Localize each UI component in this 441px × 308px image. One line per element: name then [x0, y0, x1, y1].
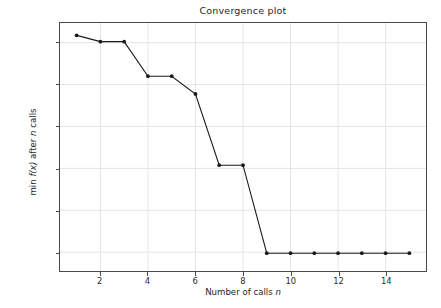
x-tick-mark: [147, 272, 148, 276]
y-tick-mark: [56, 253, 60, 254]
y-tick-mark: [56, 42, 60, 43]
x-tick-label: 2: [85, 276, 115, 286]
series-line: [77, 35, 410, 253]
data-point-marker: [407, 251, 411, 255]
x-tick-label: 14: [371, 276, 401, 286]
data-point-marker: [217, 163, 221, 167]
data-point-marker: [146, 74, 150, 78]
data-point-marker: [289, 251, 293, 255]
x-tick-mark: [291, 272, 292, 276]
plot-area: [59, 22, 427, 272]
convergence-chart-figure: Convergence plot 0.0−0.2−0.4−0.6−0.8−1.0…: [0, 0, 441, 308]
y-tick-mark: [56, 211, 60, 212]
data-point-marker: [265, 251, 269, 255]
x-tick-label: 4: [132, 276, 162, 286]
x-tick-label: 10: [276, 276, 306, 286]
data-point-marker: [312, 251, 316, 255]
y-axis-label-italic-n: n: [28, 130, 38, 135]
data-point-marker: [170, 74, 174, 78]
x-axis-label-italic: n: [275, 287, 280, 297]
x-tick-label: 12: [324, 276, 354, 286]
chart-title: Convergence plot: [59, 5, 427, 16]
y-tick-mark: [56, 126, 60, 127]
x-tick-mark: [386, 272, 387, 276]
y-tick-mark: [56, 169, 60, 170]
y-axis-label: min f(x) after n calls: [28, 72, 38, 232]
data-point-marker: [75, 33, 79, 37]
data-series-layer: [60, 23, 426, 271]
x-tick-mark: [100, 272, 101, 276]
data-point-marker: [360, 251, 364, 255]
data-point-marker: [384, 251, 388, 255]
y-tick-mark: [56, 84, 60, 85]
data-point-marker: [241, 163, 245, 167]
x-tick-mark: [243, 272, 244, 276]
x-axis-label: Number of calls n: [59, 287, 427, 297]
data-point-marker: [122, 40, 126, 44]
data-point-marker: [194, 92, 198, 96]
x-tick-mark: [339, 272, 340, 276]
y-axis-label-italic-fx: f(x): [28, 162, 38, 177]
x-tick-label: 6: [180, 276, 210, 286]
x-tick-mark: [195, 272, 196, 276]
data-point-marker: [336, 251, 340, 255]
data-point-marker: [99, 40, 103, 44]
x-tick-label: 8: [228, 276, 258, 286]
